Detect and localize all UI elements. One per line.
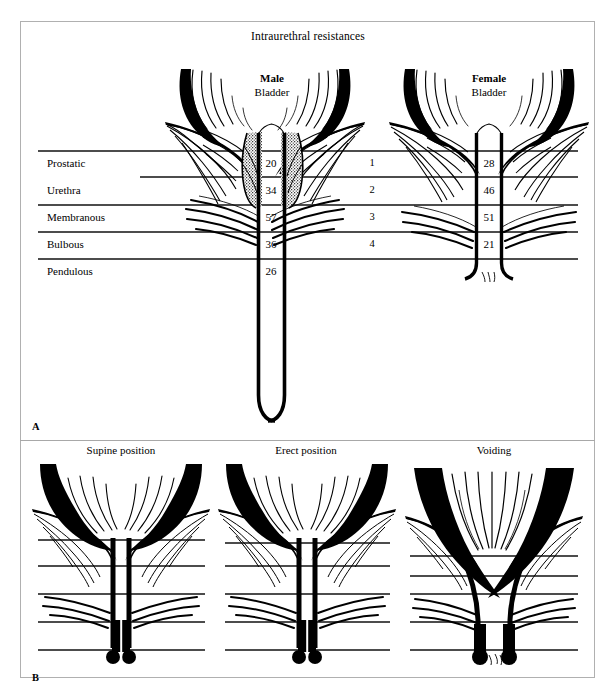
row-label-prostatic: Prostatic xyxy=(47,157,86,169)
segment-number-1: 1 xyxy=(362,157,382,168)
female-value-2: 46 xyxy=(477,184,501,196)
female-value-1: 28 xyxy=(477,157,501,169)
panel-label-b: B xyxy=(32,672,39,683)
voiding-drawing xyxy=(405,468,583,665)
caption-erect-position: Erect position xyxy=(226,444,386,456)
segment-number-3: 3 xyxy=(362,211,382,222)
row-label-urethra: Urethra xyxy=(47,184,81,196)
supine-position-drawing xyxy=(32,464,210,664)
caption-voiding: Voiding xyxy=(414,444,574,456)
male-label: Male xyxy=(260,72,284,84)
male-sublabel: Bladder xyxy=(255,86,290,98)
row-label-bulbous: Bulbous xyxy=(47,238,84,250)
figure-intraurethral-resistances: Intraurethral resistances xyxy=(0,0,616,699)
female-bladder-drawing xyxy=(389,69,589,282)
male-value-urethra: 34 xyxy=(259,184,283,196)
male-bladder-header: Male Bladder xyxy=(212,72,332,99)
male-value-bulbous: 36 xyxy=(259,238,283,250)
female-sublabel: Bladder xyxy=(472,86,507,98)
female-value-3: 51 xyxy=(477,211,501,223)
male-value-prostatic: 20 xyxy=(259,157,283,169)
female-bladder-header: Female Bladder xyxy=(429,72,549,99)
female-value-4: 21 xyxy=(477,238,501,250)
row-label-pendulous: Pendulous xyxy=(47,265,93,277)
erect-position-drawing xyxy=(218,464,396,664)
male-value-membranous: 57 xyxy=(259,211,283,223)
segment-number-4: 4 xyxy=(362,238,382,249)
caption-supine-position: Supine position xyxy=(41,444,201,456)
row-label-membranous: Membranous xyxy=(47,211,105,223)
female-label: Female xyxy=(472,72,506,84)
segment-number-2: 2 xyxy=(362,184,382,195)
panel-label-a: A xyxy=(32,421,40,432)
male-value-pendulous: 26 xyxy=(259,265,283,277)
anatomical-drawings xyxy=(0,0,616,699)
